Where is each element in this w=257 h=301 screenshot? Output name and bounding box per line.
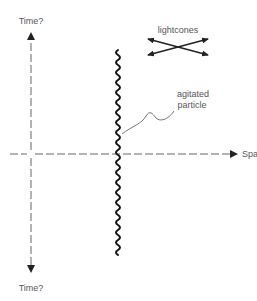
diagram-svg <box>0 0 257 301</box>
particle-pointer-line <box>122 111 174 134</box>
spacetime-diagram: Time? Time? Space lightcones agitated pa… <box>0 0 257 301</box>
space-axis-label: Space <box>242 149 257 159</box>
time-axis-top-label: Time? <box>19 16 44 26</box>
lightcones-symbol <box>148 39 208 55</box>
lightcones-label: lightcones <box>158 25 199 35</box>
particle-label-line2: particle <box>177 100 206 110</box>
lightcone-arrow-down-left <box>148 47 178 55</box>
time-axis-bottom-label: Time? <box>19 283 44 293</box>
particle-worldline <box>116 50 120 255</box>
lightcone-arrow-up-right <box>178 39 208 47</box>
particle-label-line1: agitated <box>177 89 209 99</box>
lightcone-arrow-down-right <box>178 47 208 55</box>
lightcone-arrow-up-left <box>148 39 178 47</box>
